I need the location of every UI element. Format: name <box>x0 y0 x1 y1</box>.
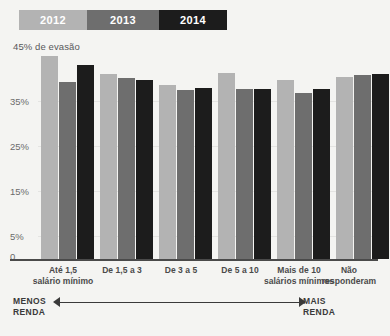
bar-2012[interactable] <box>100 74 117 259</box>
bar-2012[interactable] <box>218 73 235 259</box>
annotation-mais-line1: MAIS <box>303 296 335 307</box>
legend-item-2014[interactable]: 2014 <box>159 10 227 30</box>
bar-2012[interactable] <box>336 77 353 259</box>
bar-2013[interactable] <box>177 90 194 259</box>
bar-group-de-3-a-5 <box>159 46 212 259</box>
bar-group-de-1-5-a-3 <box>100 46 153 259</box>
bar-2013[interactable] <box>59 82 76 259</box>
bar-group-de-5-a-10 <box>218 46 271 259</box>
annotation-mais-line2: RENDA <box>303 307 335 318</box>
legend-label-2012: 2012 <box>40 14 66 26</box>
bar-2013[interactable] <box>236 89 253 259</box>
y-tick-35: 35% <box>10 96 36 107</box>
y-tick-25: 25% <box>10 141 36 152</box>
bar-2012[interactable] <box>41 56 58 259</box>
bar-2013[interactable] <box>295 93 312 259</box>
bar-2014[interactable] <box>195 88 212 259</box>
legend-label-2014: 2014 <box>180 14 206 26</box>
x-label-line1: Não <box>310 265 388 276</box>
arrow-line <box>58 302 300 303</box>
bar-2012[interactable] <box>277 80 294 259</box>
bar-2014[interactable] <box>372 74 389 259</box>
annotation-menos-line1: MENOS <box>13 296 46 307</box>
bar-2014[interactable] <box>136 80 153 259</box>
bar-2014[interactable] <box>77 65 94 259</box>
y-tick-15: 15% <box>10 186 36 197</box>
y-tick-5: 5% <box>10 231 36 242</box>
x-label-line2: salário mínimo <box>17 276 109 287</box>
chart-legend: 2012 2013 2014 <box>19 10 227 30</box>
x-label-line2: responderam <box>310 276 388 287</box>
x-axis-line <box>10 259 378 261</box>
annotation-menos-renda: MENOS RENDA <box>13 296 46 318</box>
bar-group-nao-responderam <box>336 46 389 259</box>
x-label-nao-responderam: Não responderam <box>310 265 388 286</box>
annotation-menos-line2: RENDA <box>13 307 46 318</box>
annotation-mais-renda: MAIS RENDA <box>303 296 335 318</box>
bar-2014[interactable] <box>254 89 271 259</box>
bar-2013[interactable] <box>354 75 371 259</box>
income-axis-annotation: MENOS RENDA MAIS RENDA <box>0 296 390 326</box>
legend-item-2013[interactable]: 2013 <box>87 10 159 30</box>
legend-label-2013: 2013 <box>110 14 136 26</box>
bar-group-ate-1-5 <box>41 46 94 259</box>
evasion-bar-chart: 2012 2013 2014 45% de evasão 45% 35% 25%… <box>0 0 390 336</box>
bar-2014[interactable] <box>313 89 330 259</box>
bar-2012[interactable] <box>159 85 176 259</box>
plot-area <box>38 46 378 259</box>
bar-group-mais-de-10 <box>277 46 330 259</box>
bar-2013[interactable] <box>118 78 135 259</box>
legend-item-2012[interactable]: 2012 <box>19 10 87 30</box>
